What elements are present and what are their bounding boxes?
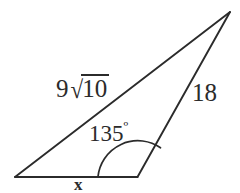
angle-label-135: 135º [89,122,128,145]
angle-value: 135 [89,121,124,146]
angle-arc-135 [98,141,161,177]
radical-sign-icon: √ [70,77,83,102]
side-label-left-coefficient: 9 [56,75,69,102]
radicand-value: 10 [82,76,108,101]
geometry-figure: 9√10 18 135º x [0,0,240,193]
side-label-left: 9√10 [56,76,108,101]
base-label-unknown: x [74,176,83,193]
side-label-right: 18 [192,80,217,105]
degree-symbol-icon: º [124,119,129,135]
radical-expression: √10 [69,76,109,101]
